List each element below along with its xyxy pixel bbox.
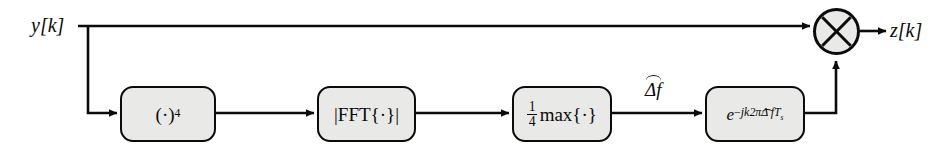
output-signal-text: z[k]: [890, 19, 922, 41]
fraction-numerator: 1: [527, 100, 537, 114]
exponential-exponent: −jk2πΔ fTs: [734, 111, 783, 118]
block-diagram: y[k] z[k] Δf (·)4 |FFT{·}| 1 4 max{·}: [0, 0, 950, 164]
wire-derotate-to-multiplier: [805, 61, 836, 113]
delta-f-text: Δf: [645, 79, 661, 100]
exponent-sample-period: T: [774, 105, 781, 119]
exponent-hat-group: Δ f: [761, 111, 774, 112]
input-signal-text: y[k]: [31, 14, 64, 36]
wire-branch-to-power4: [88, 26, 117, 113]
frequency-offset-estimate-label: Δf: [645, 78, 661, 99]
max-operator-text: max{·}: [540, 105, 597, 124]
one-quarter-fraction: 1 4: [527, 100, 537, 129]
exponent-sample-period-subscript: s: [781, 112, 784, 121]
fft-magnitude-text: |FFT{·}|: [334, 105, 399, 124]
fft-magnitude-block[interactable]: |FFT{·}|: [317, 86, 416, 142]
exponential-base: e: [727, 106, 735, 123]
multiplier-cross-icon: [816, 11, 857, 52]
exponent-jk-two-pi: jk2π: [741, 105, 761, 119]
fourth-power-block[interactable]: (·)4: [120, 86, 216, 142]
output-signal-label: z[k]: [890, 20, 922, 40]
exponent-delta-f-text: Δ f: [761, 105, 774, 119]
fourth-power-base: (·): [156, 105, 175, 124]
fraction-denominator: 4: [527, 114, 537, 129]
exponent-minus-sign: −: [734, 105, 741, 119]
frequency-derotation-block[interactable]: e−jk2πΔ fTs: [705, 86, 805, 142]
hat-accent-group: Δf: [645, 78, 661, 99]
quarter-max-block-label: 1 4 max{·}: [527, 100, 597, 129]
fft-magnitude-block-label: |FFT{·}|: [334, 105, 399, 124]
multiplier-node[interactable]: [813, 8, 860, 55]
input-signal-label: y[k]: [31, 15, 64, 35]
frequency-derotation-block-label: e−jk2πΔ fTs: [727, 106, 784, 123]
fourth-power-block-label: (·)4: [156, 105, 181, 124]
quarter-max-block[interactable]: 1 4 max{·}: [512, 86, 612, 142]
